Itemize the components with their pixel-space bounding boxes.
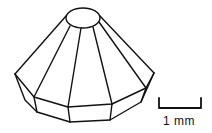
ridge-3 xyxy=(93,27,112,104)
scale-bar xyxy=(159,98,201,108)
girdle-edge-3 xyxy=(110,104,112,120)
upper-girdle xyxy=(15,73,154,107)
top-facet xyxy=(66,8,100,28)
right-edge xyxy=(100,16,154,73)
girdle-edge-2 xyxy=(68,107,70,122)
crystal-drawing xyxy=(15,8,154,122)
ridge-1 xyxy=(34,26,70,97)
left-edge xyxy=(15,16,66,74)
scale-bar-line xyxy=(159,98,201,108)
scale-bar-label: 1 mm xyxy=(163,114,195,128)
ridge-2 xyxy=(68,28,81,107)
